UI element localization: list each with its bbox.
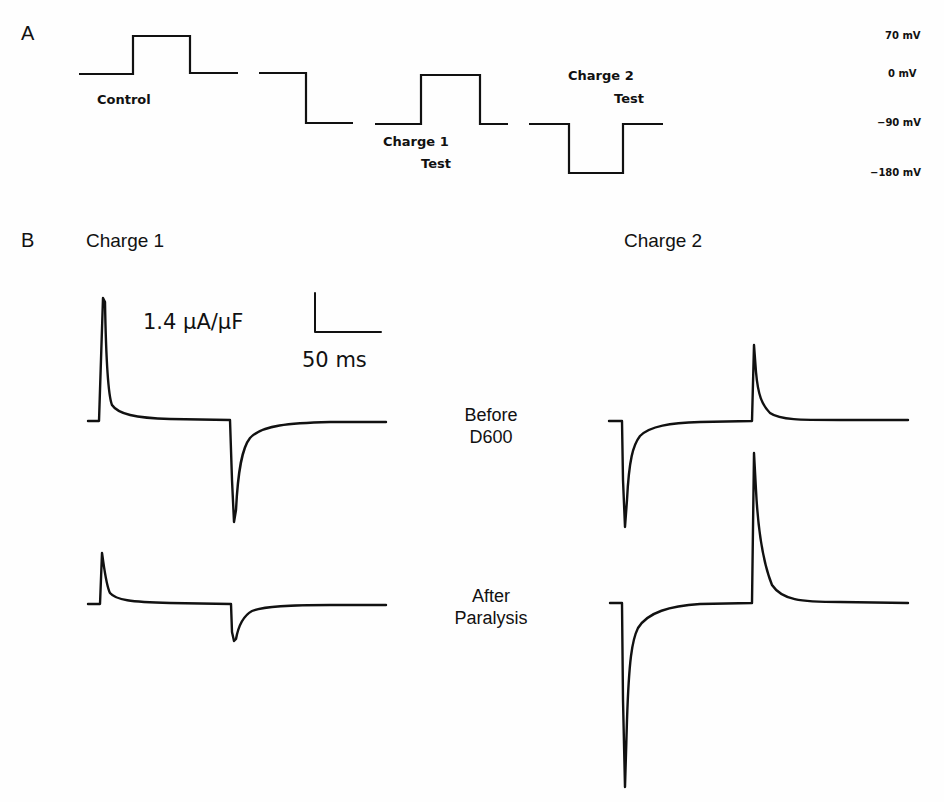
column-title-charge1: Charge 1 xyxy=(86,230,164,252)
conditioning-pulse xyxy=(259,73,353,123)
figure: A Control Charge 1 Test Charge 2 Test 70… xyxy=(0,0,944,802)
charge2-test-pulse xyxy=(529,124,663,173)
row-label-after-line1: After xyxy=(436,585,546,607)
trace-charge2-after xyxy=(610,453,908,787)
voltage-label-0: 0 mV xyxy=(888,68,917,79)
protocol-label-charge2: Charge 2 xyxy=(568,68,634,83)
charge1-test-pulse xyxy=(375,75,508,124)
trace-charge2-before xyxy=(609,345,908,527)
traces-canvas xyxy=(0,0,944,802)
voltage-label-minus180: −180 mV xyxy=(870,167,921,178)
row-label-after-line2: Paralysis xyxy=(436,607,546,629)
control-pulse xyxy=(79,36,238,74)
row-label-after: After Paralysis xyxy=(436,585,546,629)
row-label-before-line2: D600 xyxy=(436,426,546,448)
scale-bar-time-label: 50 ms xyxy=(302,348,367,372)
column-title-charge2: Charge 2 xyxy=(624,230,702,252)
voltage-label-70: 70 mV xyxy=(885,30,921,41)
row-label-before: Before D600 xyxy=(436,404,546,448)
scale-bar xyxy=(315,293,381,332)
panel-b-letter: B xyxy=(21,229,34,252)
protocol-label-control: Control xyxy=(97,92,151,107)
protocol-label-charge1-test: Test xyxy=(421,156,451,171)
protocol-label-charge1: Charge 1 xyxy=(383,134,449,149)
scale-bar-current-label: 1.4 μA/μF xyxy=(143,310,243,334)
protocol-label-charge2-test: Test xyxy=(614,91,644,106)
voltage-label-minus90: −90 mV xyxy=(877,117,921,128)
row-label-before-line1: Before xyxy=(436,404,546,426)
trace-charge1-after xyxy=(88,553,386,641)
panel-a-letter: A xyxy=(21,22,34,45)
